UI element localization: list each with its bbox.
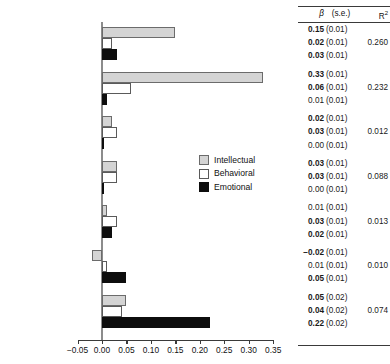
stat-r2: 0.012	[358, 128, 388, 136]
stat-beta: 0.22	[298, 320, 324, 328]
stat-se: (0.01)	[324, 231, 358, 239]
stat-row-income-0: 0.15(0.01)	[298, 26, 390, 34]
bar-intellectual-not-unemployed	[102, 116, 112, 127]
stat-row-not-unemployed-0: 0.02(0.01)	[298, 115, 390, 123]
stat-row-qualifications-1: 0.06(0.01)0.232	[298, 84, 390, 92]
bar-intellectual-physical-health	[92, 250, 102, 261]
stat-beta: 0.03	[298, 128, 324, 136]
stat-beta: 0.01	[298, 204, 324, 212]
axis-tick-6	[224, 340, 225, 344]
stat-r2	[358, 320, 388, 328]
stat-beta: 0.33	[298, 71, 324, 79]
legend: IntellectualBehavioralEmotional	[199, 155, 255, 192]
stat-se: (0.01)	[324, 262, 358, 270]
bar-emotional-physical-health	[102, 272, 126, 283]
axis-tick-2	[126, 340, 127, 344]
stat-r2: 0.088	[358, 173, 388, 181]
stat-beta: −0.02	[298, 249, 324, 257]
stat-se: (0.01)	[324, 142, 358, 150]
stat-r2	[358, 275, 388, 283]
bar-group-emotional-health	[0, 295, 290, 328]
stat-r2	[358, 26, 388, 34]
stat-beta: 0.01	[298, 262, 324, 270]
stat-se: (0.01)	[324, 249, 358, 257]
legend-item-intellectual: Intellectual	[199, 155, 255, 165]
stat-row-qualifications-0: 0.33(0.01)	[298, 71, 390, 79]
bar-emotional-emotional-health	[102, 317, 210, 328]
stat-se: (0.02)	[324, 294, 358, 302]
bar-group-physical-health	[0, 250, 290, 283]
stat-row-partnered-2: 0.02(0.01)	[298, 231, 390, 239]
stat-r2: 0.013	[358, 218, 388, 226]
axis-tick-label-8: 0.35	[265, 346, 281, 354]
axis-tick-5	[200, 340, 201, 344]
stats-table: β (s.e.) R2 0.15(0.01)0.02(0.01)0.2600.0…	[298, 0, 390, 364]
axis-tick-label-7: 0.30	[241, 346, 257, 354]
bar-emotional-noncriminality	[102, 183, 104, 194]
axis-tick-label-5: 0.20	[192, 346, 208, 354]
axis-tick-label-2: 0.05	[118, 346, 134, 354]
stat-r2	[358, 294, 388, 302]
axis-tick-label-3: 0.10	[143, 346, 159, 354]
bar-intellectual-partnered	[102, 205, 107, 216]
stat-se: (0.01)	[324, 218, 358, 226]
bar-emotional-not-unemployed	[102, 138, 104, 149]
stat-r2	[358, 142, 388, 150]
header-r2: R2	[358, 10, 388, 21]
table-rule-bottom	[298, 345, 390, 346]
bar-group-income	[0, 27, 290, 60]
stat-row-partnered-0: 0.01(0.01)	[298, 204, 390, 212]
legend-label-behavioral: Behavioral	[214, 169, 255, 178]
stat-r2	[358, 71, 388, 79]
table-rule-mid	[298, 22, 390, 23]
legend-swatch-emotional-icon	[199, 182, 209, 192]
stat-beta: 0.03	[298, 52, 324, 60]
table-rule-top	[298, 6, 390, 7]
stat-row-noncriminality-1: 0.03(0.01)0.088	[298, 173, 390, 181]
stat-r2	[358, 186, 388, 194]
bar-group-partnered	[0, 205, 290, 238]
stat-se: (0.01)	[324, 97, 358, 105]
legend-item-behavioral: Behavioral	[199, 169, 255, 179]
stat-beta: 0.05	[298, 275, 324, 283]
stat-se: (0.01)	[324, 26, 358, 34]
axis-tick-label-6: 0.25	[216, 346, 232, 354]
legend-swatch-behavioral-icon	[199, 169, 209, 179]
stat-se: (0.02)	[324, 307, 358, 315]
stat-row-qualifications-2: 0.01(0.01)	[298, 97, 390, 105]
stat-se: (0.01)	[324, 39, 358, 47]
bar-behavioral-noncriminality	[102, 172, 117, 183]
stat-beta: 0.03	[298, 218, 324, 226]
stat-r2: 0.010	[358, 262, 388, 270]
stat-se: (0.01)	[324, 52, 358, 60]
stat-se: (0.01)	[324, 160, 358, 168]
stat-r2	[358, 204, 388, 212]
stat-row-noncriminality-2: 0.00(0.01)	[298, 186, 390, 194]
stat-se: (0.01)	[324, 204, 358, 212]
axis-tick-label-4: 0.15	[167, 346, 183, 354]
stat-beta: 0.01	[298, 97, 324, 105]
bar-behavioral-emotional-health	[102, 306, 122, 317]
stat-beta: 0.00	[298, 186, 324, 194]
stat-r2: 0.260	[358, 39, 388, 47]
bar-emotional-partnered	[102, 227, 112, 238]
stat-row-income-1: 0.02(0.01)0.260	[298, 39, 390, 47]
stat-row-emotional-health-1: 0.04(0.02)0.074	[298, 307, 390, 315]
stat-r2	[358, 249, 388, 257]
bar-intellectual-emotional-health	[102, 295, 126, 306]
stat-beta: 0.04	[298, 307, 324, 315]
legend-label-intellectual: Intellectual	[214, 156, 255, 165]
stat-beta: 0.03	[298, 160, 324, 168]
stat-beta: 0.15	[298, 26, 324, 34]
legend-item-emotional: Emotional	[199, 182, 255, 192]
legend-label-emotional: Emotional	[214, 183, 252, 192]
stat-beta: 0.06	[298, 84, 324, 92]
stat-r2	[358, 231, 388, 239]
stat-se: (0.01)	[324, 115, 358, 123]
stat-row-partnered-1: 0.03(0.01)0.013	[298, 218, 390, 226]
stat-row-not-unemployed-2: 0.00(0.01)	[298, 142, 390, 150]
bar-behavioral-partnered	[102, 216, 117, 227]
stat-row-emotional-health-2: 0.22(0.02)	[298, 320, 390, 328]
axis-tick-1	[102, 340, 103, 344]
stat-row-emotional-health-0: 0.05(0.02)	[298, 294, 390, 302]
